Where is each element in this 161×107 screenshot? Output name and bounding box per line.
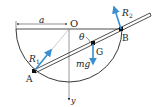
label-reaction-r2: R 2 (121, 8, 133, 19)
svg-text:R: R (121, 8, 129, 18)
svg-text:1: 1 (36, 58, 40, 65)
label-y-axis: y (70, 96, 76, 105)
svg-text:R: R (28, 54, 36, 64)
label-weight-mg: mg (76, 59, 91, 69)
label-angle-theta: θ (79, 32, 85, 42)
label-origin-o: O (70, 18, 78, 29)
label-reaction-r1: R 1 (28, 54, 40, 65)
label-point-g: G (96, 47, 103, 57)
reaction-r2-arrow (114, 7, 121, 29)
label-point-b: B (122, 33, 129, 43)
svg-text:2: 2 (129, 12, 133, 19)
label-radius-a: a (39, 15, 44, 25)
label-point-a: A (25, 74, 33, 84)
bowl-rod-diagram: a O A B G θ R 1 R 2 mg y (0, 0, 161, 107)
angle-theta-arc (86, 37, 90, 42)
